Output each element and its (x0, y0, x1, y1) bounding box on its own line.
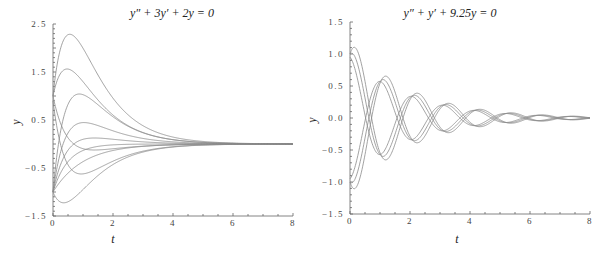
left-x-tick-labels: 02468 (50, 218, 296, 228)
right-y-axis-label: y (305, 117, 319, 124)
y-tick-label: −1.5 (25, 211, 47, 221)
y-tick-label: −0.5 (25, 163, 47, 173)
solution-curve (53, 144, 293, 192)
left-curves (53, 34, 293, 203)
y-tick-label: 2.5 (31, 19, 47, 29)
solution-curve (350, 80, 590, 183)
left-x-axis (53, 213, 293, 216)
right-curves (350, 47, 590, 188)
y-tick-label: 1.5 (328, 17, 344, 27)
right-x-axis-label: t (455, 232, 459, 246)
solution-curve (53, 144, 293, 203)
right-x-axis (350, 211, 590, 214)
right-x-tick-labels: 02468 (347, 216, 593, 226)
y-tick-label: 0.0 (328, 113, 344, 123)
x-tick-label: 0 (347, 216, 353, 226)
right-plot-title: y″ + y′ + 9.25y = 0 (403, 6, 497, 20)
left-x-axis-label: t (111, 232, 115, 246)
solution-curve (350, 81, 590, 178)
x-tick-label: 2 (407, 216, 413, 226)
right-plot: y″ + y′ + 9.25y = 0 1.51.00.50.0−0.5−1.0… (305, 6, 593, 246)
y-tick-label: −1.5 (322, 209, 344, 219)
solution-curve (350, 57, 590, 154)
x-tick-label: 4 (170, 218, 176, 228)
x-tick-label: 2 (110, 218, 116, 228)
x-tick-label: 6 (230, 218, 236, 228)
x-tick-label: 4 (467, 216, 473, 226)
y-tick-label: −1.0 (322, 177, 344, 187)
solution-curve (350, 47, 590, 160)
x-tick-label: 6 (527, 216, 533, 226)
solution-curve (350, 76, 590, 189)
y-tick-label: 1.0 (328, 49, 344, 59)
figure: y″ + 3y′ + 2y = 0 2.51.50.5−0.5−1.5 0246… (0, 0, 602, 254)
right-y-tick-labels: 1.51.00.50.0−0.5−1.0−1.5 (322, 17, 344, 219)
x-tick-label: 8 (587, 216, 593, 226)
solution-curve (53, 69, 293, 144)
solution-curve (53, 144, 293, 192)
left-plot: y″ + 3y′ + 2y = 0 2.51.50.5−0.5−1.5 0246… (9, 6, 296, 246)
y-tick-label: 1.5 (31, 67, 47, 77)
left-y-tick-labels: 2.51.50.5−0.5−1.5 (25, 19, 47, 221)
solution-curve (53, 123, 293, 192)
left-plot-title: y″ + 3y′ + 2y = 0 (129, 6, 214, 20)
y-tick-label: −0.5 (322, 145, 344, 155)
y-tick-label: 0.5 (328, 81, 344, 91)
x-tick-label: 8 (290, 218, 296, 228)
solution-curve (350, 53, 590, 156)
y-tick-label: 0.5 (31, 115, 47, 125)
left-y-axis-label: y (9, 119, 23, 126)
x-tick-label: 0 (50, 218, 56, 228)
